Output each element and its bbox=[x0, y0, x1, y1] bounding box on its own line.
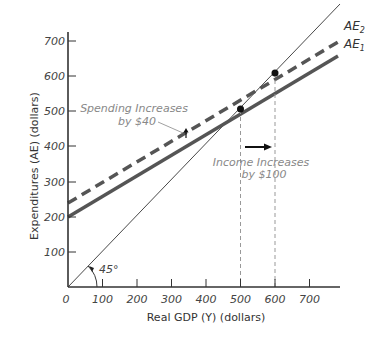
plot-lines bbox=[68, 4, 340, 287]
equilibrium-point-1 bbox=[237, 106, 244, 113]
aggregate-expenditure-chart: 100 200 300 400 500 600 700 0 100 200 30… bbox=[0, 0, 376, 338]
angle-label: 45° bbox=[99, 263, 119, 276]
svg-text:700: 700 bbox=[299, 293, 320, 306]
x-ticks bbox=[103, 279, 310, 287]
y-ticks bbox=[68, 41, 76, 252]
svg-text:600: 600 bbox=[44, 70, 65, 83]
spending-annotation-line2: by $40 bbox=[118, 115, 156, 128]
spending-annotation-line1: Spending Increases bbox=[80, 102, 188, 115]
ae2-line bbox=[68, 42, 338, 203]
svg-text:400: 400 bbox=[196, 293, 217, 306]
ae2-label: AE2 bbox=[343, 19, 365, 35]
x-tick-labels: 0 100 200 300 400 500 600 700 bbox=[63, 293, 321, 306]
svg-text:500: 500 bbox=[44, 105, 65, 118]
svg-text:100: 100 bbox=[44, 246, 65, 259]
spending-leader bbox=[158, 122, 183, 133]
svg-text:400: 400 bbox=[44, 140, 65, 153]
spending-arrow-head bbox=[184, 128, 189, 133]
ae1-line bbox=[68, 56, 338, 217]
angle-arc-head bbox=[89, 266, 94, 272]
45-degree-line bbox=[68, 4, 340, 287]
svg-text:500: 500 bbox=[230, 293, 251, 306]
equilibrium-point-2 bbox=[272, 70, 279, 77]
income-annotation-line2: by $100 bbox=[242, 168, 287, 181]
y-axis-title: Expenditures (AE) (dollars) bbox=[28, 92, 41, 240]
svg-text:300: 300 bbox=[44, 176, 65, 189]
income-arrow-head bbox=[264, 144, 272, 151]
y-tick-labels: 100 200 300 400 500 600 700 bbox=[44, 35, 65, 259]
series-labels: AE2 AE1 bbox=[343, 19, 365, 53]
ae1-label: AE1 bbox=[343, 37, 365, 53]
svg-text:600: 600 bbox=[265, 293, 286, 306]
x-axis-title: Real GDP (Y) (dollars) bbox=[147, 311, 266, 324]
svg-text:200: 200 bbox=[44, 211, 65, 224]
svg-text:700: 700 bbox=[44, 35, 65, 48]
svg-text:0: 0 bbox=[63, 293, 70, 306]
svg-text:200: 200 bbox=[127, 293, 148, 306]
svg-text:300: 300 bbox=[161, 293, 182, 306]
svg-text:100: 100 bbox=[92, 293, 113, 306]
